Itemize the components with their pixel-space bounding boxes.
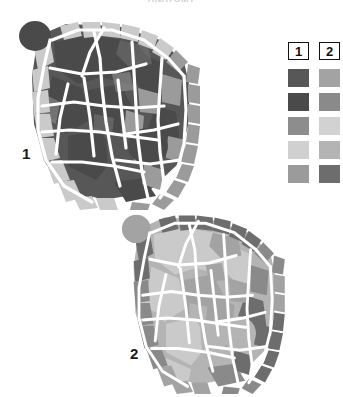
panel-2-cells (122, 215, 285, 394)
panel-2-label: 2 (130, 346, 138, 361)
legend-swatch-col1-row3 (288, 117, 309, 135)
legend-swatch-col1-row1 (288, 69, 309, 87)
panel-1: 1 (8, 14, 208, 210)
panel-1-cells (19, 21, 200, 210)
figure-caption-strip: ANATOMY (0, 0, 343, 7)
legend-swatch-col2-row1 (319, 69, 340, 87)
panel-1-label: 1 (22, 146, 30, 161)
legend-swatch-col2-row4 (319, 141, 340, 159)
legend: 1 2 (288, 42, 340, 189)
figure-root: ANATOMY (0, 0, 343, 397)
figure-caption: ANATOMY (0, 0, 343, 4)
legend-swatch-col2-row2 (319, 93, 340, 111)
legend-row (288, 117, 340, 135)
legend-row (288, 141, 340, 159)
panel-2-circle-upper (122, 215, 151, 243)
legend-swatch-col1-row2 (288, 93, 309, 111)
panel-2: 2 (112, 208, 292, 394)
legend-column-header-2: 2 (319, 42, 340, 60)
legend-swatch-col2-row5 (319, 165, 340, 183)
legend-header: 1 2 (288, 42, 340, 60)
legend-column-header-1: 1 (288, 42, 309, 60)
legend-row (288, 69, 340, 87)
legend-row (288, 93, 340, 111)
legend-swatch-col1-row4 (288, 141, 309, 159)
panel-2-diagram (112, 208, 292, 394)
legend-swatch-col2-row3 (319, 117, 340, 135)
panel-1-circle-upper (19, 21, 51, 51)
panel-1-diagram (8, 14, 208, 210)
legend-swatch-col1-row5 (288, 165, 309, 183)
legend-row (288, 165, 340, 183)
